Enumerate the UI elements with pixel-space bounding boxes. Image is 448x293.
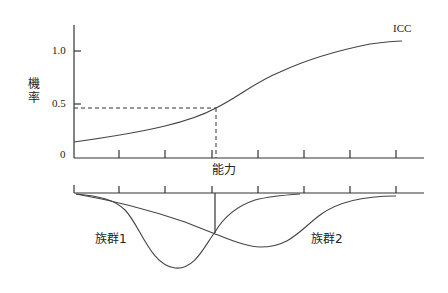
y-tick-label-0: 0 — [60, 149, 66, 160]
y-tick-label-1: 1.0 — [52, 45, 66, 56]
group1-label: 族群1 — [95, 233, 127, 245]
top-axes — [74, 25, 424, 158]
icc-diagram — [0, 0, 448, 293]
icc-curve — [74, 41, 402, 142]
y-tick-label-05: 0.5 — [52, 98, 66, 109]
dashed-reference — [74, 108, 216, 158]
group2-label: 族群2 — [311, 233, 343, 245]
y-axis-label: 機率 — [28, 77, 42, 105]
icc-label: ICC — [393, 23, 411, 34]
x-axis-label: 能力 — [212, 164, 236, 176]
bottom-axis — [74, 185, 424, 233]
